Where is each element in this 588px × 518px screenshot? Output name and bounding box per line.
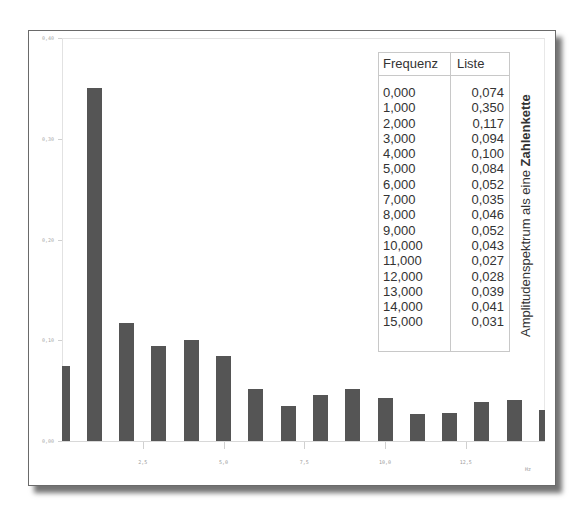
- bar-7: [281, 406, 296, 441]
- x-tick-mark: [143, 442, 144, 449]
- x-tick-label: 12,5: [451, 459, 481, 465]
- bar-11: [410, 414, 425, 441]
- table-cell-liste: 0,052: [471, 177, 504, 192]
- table-cell-liste: 0,041: [471, 299, 504, 314]
- table-cell-frequenz: 4,000: [383, 146, 423, 161]
- y-tick-mark: [58, 441, 62, 442]
- x-tick-label: 10,0: [370, 459, 400, 465]
- bar-2: [119, 323, 134, 441]
- table-cell-frequenz: 6,000: [383, 177, 423, 192]
- table-cell-liste: 0,031: [471, 314, 504, 329]
- bar-8: [313, 395, 328, 441]
- table-cell-frequenz: 0,000: [383, 85, 423, 100]
- liste-column: 0,0740,3500,1170,0940,1000,0840,0520,035…: [471, 85, 504, 330]
- table-cell-liste: 0,117: [471, 116, 504, 131]
- y-tick-mark: [58, 340, 62, 341]
- table-header-divider: [379, 75, 509, 76]
- table-cell-liste: 0,094: [471, 131, 504, 146]
- table-cell-frequenz: 15,000: [383, 314, 423, 329]
- y-tick-label: 0,40: [24, 35, 54, 41]
- table-cell-frequenz: 14,000: [383, 299, 423, 314]
- x-tick-mark: [385, 442, 386, 449]
- table-column-divider: [450, 53, 451, 351]
- x-tick-label: 2,5: [128, 459, 158, 465]
- table-cell-liste: 0,350: [471, 100, 504, 115]
- table-cell-liste: 0,100: [471, 146, 504, 161]
- table-cell-liste: 0,052: [471, 223, 504, 238]
- table-cell-frequenz: 1,000: [383, 100, 423, 115]
- bar-15: [539, 410, 545, 441]
- table-cell-liste: 0,074: [471, 85, 504, 100]
- x-tick-mark: [224, 442, 225, 449]
- table-header-liste: Liste: [457, 56, 484, 71]
- y-tick-label: 0,10: [24, 337, 54, 343]
- x-tick-label: 7,5: [289, 459, 319, 465]
- table-cell-frequenz: 10,000: [383, 238, 423, 253]
- bar-5: [216, 356, 231, 441]
- y-tick-label: 0,20: [24, 237, 54, 243]
- bar-1: [87, 88, 102, 441]
- y-tick-mark: [58, 240, 62, 241]
- table-cell-frequenz: 2,000: [383, 116, 423, 131]
- bar-0: [62, 366, 70, 441]
- table-cell-liste: 0,084: [471, 161, 504, 176]
- bar-13: [474, 402, 489, 441]
- x-tick-mark: [466, 442, 467, 449]
- y-tick-label: 0,00: [24, 438, 54, 444]
- y-tick-mark: [58, 38, 62, 39]
- y-tick-mark: [58, 139, 62, 140]
- table-cell-frequenz: 9,000: [383, 223, 423, 238]
- bar-14: [507, 400, 522, 441]
- table-cell-liste: 0,043: [471, 238, 504, 253]
- y-tick-label: 0,30: [24, 136, 54, 142]
- table-cell-liste: 0,046: [471, 207, 504, 222]
- bar-6: [248, 389, 263, 441]
- x-tick-label: 5,0: [209, 459, 239, 465]
- bar-10: [378, 398, 393, 441]
- table-cell-frequenz: 7,000: [383, 192, 423, 207]
- table-cell-liste: 0,035: [471, 192, 504, 207]
- bar-4: [184, 340, 199, 441]
- table-cell-frequenz: 8,000: [383, 207, 423, 222]
- table-cell-frequenz: 13,000: [383, 284, 423, 299]
- table-cell-liste: 0,039: [471, 284, 504, 299]
- x-axis-unit: Hz: [525, 466, 531, 472]
- table-header-frequenz: Frequenz: [383, 56, 438, 71]
- table-cell-frequenz: 12,000: [383, 269, 423, 284]
- table-cell-frequenz: 11,000: [383, 253, 423, 268]
- table-cell-frequenz: 3,000: [383, 131, 423, 146]
- bar-9: [345, 389, 360, 441]
- x-tick-mark: [304, 442, 305, 449]
- frequenz-column: 0,0001,0002,0003,0004,0005,0006,0007,000…: [383, 85, 423, 330]
- bar-12: [442, 413, 457, 441]
- table-cell-frequenz: 5,000: [383, 161, 423, 176]
- table-cell-liste: 0,027: [471, 253, 504, 268]
- bar-3: [151, 346, 166, 441]
- chart-side-title: Amplitudenspektrum als eine Zahlenkette: [518, 94, 533, 337]
- data-table: Frequenz Liste 0,0001,0002,0003,0004,000…: [378, 52, 510, 352]
- table-cell-liste: 0,028: [471, 269, 504, 284]
